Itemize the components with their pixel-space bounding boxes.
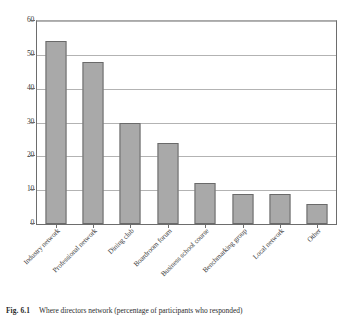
y-tick-mark-10 (30, 189, 35, 190)
y-tick-mark-40 (30, 88, 35, 89)
bar-slot (261, 20, 298, 224)
x-axis-labels: Industry networkProfessional networkDini… (37, 226, 336, 298)
x-label-slot: Other (299, 226, 336, 298)
figure-caption: Fig. 6.1Where directors network (percent… (6, 306, 354, 315)
y-tick-mark-0 (30, 223, 35, 224)
figure-number: Fig. 6.1 (6, 306, 30, 315)
bar[interactable] (157, 143, 178, 224)
x-axis-label: Other (306, 227, 323, 244)
x-label-slot: Local network (261, 226, 298, 298)
y-tick-mark-50 (30, 54, 35, 55)
bar-slot (224, 20, 261, 224)
bar-slot (299, 20, 336, 224)
bar[interactable] (307, 204, 328, 224)
figure-container: Industry networkProfessional networkDini… (0, 0, 359, 320)
bar-series (37, 20, 336, 224)
bar[interactable] (269, 194, 290, 224)
bar[interactable] (45, 41, 66, 224)
x-axis-label: Industry network (22, 227, 61, 266)
bar[interactable] (195, 183, 216, 224)
bar-slot (37, 20, 74, 224)
bar-slot (112, 20, 149, 224)
bar-slot (74, 20, 111, 224)
x-axis-label: Dining club (107, 227, 136, 256)
bar[interactable] (83, 62, 104, 224)
bar[interactable] (120, 123, 141, 225)
figure-caption-text: Where directors network (percentage of p… (39, 306, 242, 315)
bar-slot (149, 20, 186, 224)
bar[interactable] (232, 194, 253, 224)
bar-slot (187, 20, 224, 224)
x-label-slot: Professional network (74, 226, 111, 298)
y-tick-mark-60 (30, 20, 35, 21)
x-label-slot: Benchmarking group (224, 226, 261, 298)
y-tick-mark-20 (30, 155, 35, 156)
y-tick-mark-30 (30, 122, 35, 123)
